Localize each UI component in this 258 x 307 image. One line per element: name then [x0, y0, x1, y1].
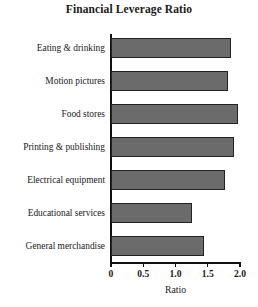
category-label: Motion pictures	[0, 71, 105, 91]
bar-motion-pictures	[111, 71, 228, 91]
bar-printing-publishing	[111, 137, 234, 157]
bar-electrical-equipment	[111, 170, 225, 190]
x-tick-mark	[239, 262, 240, 267]
plot-area: Eating & drinking Motion pictures Food s…	[111, 34, 240, 262]
x-tick-mark	[110, 262, 111, 267]
category-label: Food stores	[0, 104, 105, 124]
bar-general-merchandise	[111, 236, 204, 256]
chart-title: Financial Leverage Ratio	[0, 3, 258, 15]
bar-eating-drinking	[111, 38, 231, 58]
category-label: Electrical equipment	[0, 170, 105, 190]
financial-leverage-ratio-chart: Financial Leverage Ratio Eating & drinki…	[0, 0, 258, 307]
category-label: Educational services	[0, 203, 105, 223]
category-label: Eating & drinking	[0, 38, 105, 58]
bar-food-stores	[111, 104, 238, 124]
category-label: General merchandise	[0, 236, 105, 256]
bar-educational-services	[111, 203, 192, 223]
category-label: Printing & publishing	[0, 137, 105, 157]
x-tick-mark	[207, 262, 208, 267]
x-tick-mark	[175, 262, 176, 267]
x-tick-mark	[143, 262, 144, 267]
x-axis-title: Ratio	[111, 284, 240, 295]
x-tick-label: 2.0	[220, 268, 258, 279]
